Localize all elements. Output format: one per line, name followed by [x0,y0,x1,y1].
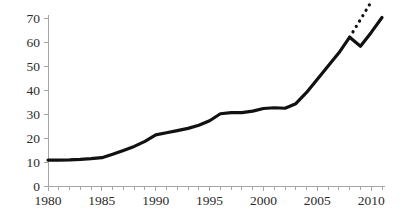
chart-canvas: 010203040506070 198019851990199520002005… [0,0,405,220]
x-tick-label: 2000 [250,193,277,208]
x-tick-label: 1985 [88,193,115,208]
x-tick-label: 1990 [142,193,169,208]
chart-background [0,0,405,220]
y-tick-label: 20 [27,131,41,146]
x-tick-label: 1995 [196,193,223,208]
y-tick-label: 0 [33,179,40,194]
y-tick-label: 30 [27,107,41,122]
x-tick-label: 2010 [358,193,385,208]
line-chart: 010203040506070 198019851990199520002005… [0,0,405,220]
y-tick-label: 10 [27,155,41,170]
x-tick-label: 1980 [35,193,62,208]
y-tick-label: 70 [27,11,41,26]
y-tick-label: 50 [27,59,41,74]
y-tick-label: 40 [27,83,41,98]
x-tick-label: 2005 [304,193,331,208]
y-tick-label: 60 [27,35,41,50]
